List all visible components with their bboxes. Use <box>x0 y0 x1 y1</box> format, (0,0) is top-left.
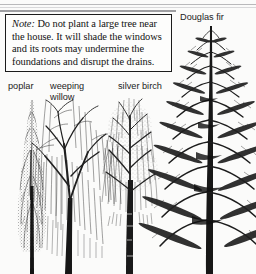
label-poplar: poplar <box>8 81 34 92</box>
willow-trunk <box>65 198 73 274</box>
tree-silver-birch <box>102 98 158 274</box>
poplar-trunk <box>30 186 34 274</box>
note-lead-label: Note: <box>12 18 35 29</box>
birch-trunk <box>126 180 133 274</box>
scan-rule-third <box>0 10 176 12</box>
note-body-text: Do not plant a large tree near the house… <box>12 18 162 67</box>
label-douglas-fir: Douglas fir <box>180 12 224 23</box>
scan-rule-top <box>0 4 256 5</box>
note-text: Note: Do not plant a large tree near the… <box>12 18 165 68</box>
tree-poplar <box>10 96 54 274</box>
note-box: Note: Do not plant a large tree near the… <box>5 14 172 72</box>
book-page: Note: Do not plant a large tree near the… <box>0 0 256 274</box>
scan-rule-second <box>0 7 256 8</box>
label-silver-birch: silver birch <box>118 81 164 92</box>
tree-weeping-willow <box>27 100 121 274</box>
fir-trunk <box>206 26 213 274</box>
label-weeping-willow: weeping willow <box>50 81 102 102</box>
